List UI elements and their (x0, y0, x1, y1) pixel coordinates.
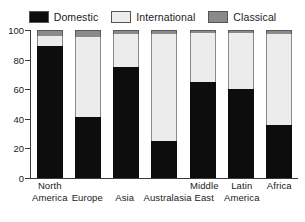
x-label-line2: America (31, 192, 69, 204)
legend-item-domestic: Domestic (29, 11, 99, 23)
x-label-line2: America (223, 192, 261, 204)
bar-segment-domestic (37, 46, 63, 178)
bar-group (31, 30, 298, 178)
y-axis: 100 80 60 40 20 0 (0, 30, 30, 178)
legend-swatch-domestic (29, 11, 49, 23)
legend-swatch-international (111, 11, 131, 23)
x-label-line1: Middle (186, 180, 224, 192)
bar-segment-international (75, 37, 101, 117)
bar-segment-domestic (228, 89, 254, 178)
x-label-line1: Latin (223, 180, 261, 192)
bar-latin-america (228, 30, 254, 178)
bar-segment-domestic (113, 67, 139, 178)
x-label-africa: Africa (261, 180, 299, 220)
bar-segment-domestic (266, 125, 292, 178)
x-label-middle-east: Middle East (186, 180, 224, 220)
x-label-line2: Europe (69, 192, 107, 204)
y-tick-label-80: 80 (13, 54, 24, 65)
x-label-north-america: North America (31, 180, 69, 220)
bar-middle-east (190, 30, 216, 178)
y-tick-label-100: 100 (8, 25, 24, 36)
x-label-line2: East (186, 192, 224, 204)
bar-segment-international (113, 34, 139, 67)
legend-label-domestic: Domestic (54, 11, 99, 23)
legend-swatch-classical (208, 11, 228, 23)
y-tick-label-40: 40 (13, 113, 24, 124)
bar-segment-international (228, 33, 254, 89)
bar-asia (113, 30, 139, 178)
chart-legend: Domestic International Classical (0, 6, 305, 28)
x-label-line1: Africa (261, 180, 299, 192)
bar-australasia (151, 30, 177, 178)
stacked-bar-chart: Domestic International Classical 100 80 … (0, 0, 305, 222)
bar-segment-international (151, 34, 177, 141)
bar-segment-domestic (75, 117, 101, 178)
legend-label-international: International (136, 11, 195, 23)
bar-africa (266, 30, 292, 178)
x-label-australasia: Australasia (144, 180, 186, 220)
y-tick-label-0: 0 (19, 173, 24, 184)
x-label-latin-america: Latin America (223, 180, 261, 220)
bar-segment-domestic (190, 82, 216, 178)
bar-segment-international (37, 36, 63, 46)
x-label-europe: Europe (69, 180, 107, 220)
bar-europe (75, 30, 101, 178)
y-tick-label-20: 20 (13, 143, 24, 154)
y-tick-label-60: 60 (13, 84, 24, 95)
bar-segment-domestic (151, 141, 177, 178)
legend-item-international: International (111, 11, 195, 23)
bar-segment-international (190, 33, 216, 82)
legend-label-classical: Classical (233, 11, 276, 23)
x-label-line2: Asia (106, 192, 144, 204)
plot-area: 100 80 60 40 20 0 North America Europe (0, 30, 305, 222)
bar-north-america (37, 30, 63, 178)
x-label-line1: North (31, 180, 69, 192)
bar-segment-classical (75, 30, 101, 37)
legend-item-classical: Classical (208, 11, 276, 23)
bar-segment-international (266, 34, 292, 124)
x-axis-line (30, 178, 298, 179)
x-axis-labels: North America Europe Asia Australasia Mi… (31, 180, 298, 220)
x-label-asia: Asia (106, 180, 144, 220)
x-label-line2: Australasia (144, 192, 186, 204)
